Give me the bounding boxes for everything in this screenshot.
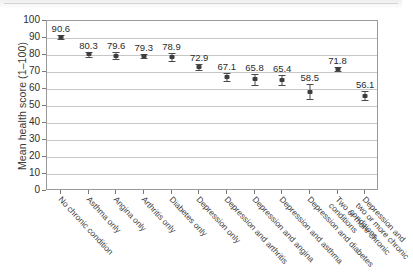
y-tick-label: 80 (14, 48, 40, 59)
error-bar-cap-lower (306, 99, 313, 100)
y-tick-label: 30 (14, 133, 40, 144)
error-bar-cap-lower (251, 85, 258, 86)
y-tick-label: 10 (14, 167, 40, 178)
point-marker (141, 54, 146, 58)
error-bar-cap-lower (279, 85, 286, 86)
point-value-label: 80.3 (79, 40, 98, 51)
point-value-label: 78.9 (162, 41, 181, 52)
point-marker (114, 54, 119, 58)
y-tick-label: 20 (14, 150, 40, 161)
error-bar-cap-lower (168, 61, 175, 62)
point-marker (280, 78, 285, 82)
error-bar-cap-lower (140, 58, 147, 59)
point-value-label: 79.6 (107, 40, 126, 51)
point-marker (58, 35, 63, 39)
data-point: 71.8 (323, 21, 353, 191)
point-marker (224, 75, 229, 79)
y-tick-label: 100 (14, 14, 40, 25)
data-point: 58.5 (295, 21, 325, 191)
y-tick-label: 40 (14, 116, 40, 127)
x-axis-category-line: No chronic condition (56, 195, 114, 257)
point-value-label: 56.1 (356, 79, 375, 90)
error-bar-cap-lower (113, 59, 120, 60)
error-bar-cap-upper (251, 74, 258, 75)
data-point: 79.3 (129, 21, 159, 191)
point-value-label: 71.8 (328, 55, 347, 66)
point-marker (307, 90, 312, 94)
error-bar-cap-upper (362, 91, 369, 92)
data-point: 78.9 (157, 21, 187, 191)
y-tick-label: 60 (14, 82, 40, 93)
error-bar-cap-lower (196, 70, 203, 71)
point-marker (335, 67, 340, 71)
data-point: 90.6 (46, 21, 76, 191)
plot-area: 90.680.379.679.378.972.967.165.865.458.5… (46, 20, 378, 190)
point-marker (86, 52, 91, 56)
error-bar-cap-lower (85, 57, 92, 58)
error-bar-cap-upper (279, 75, 286, 76)
y-tick-label: 70 (14, 65, 40, 76)
point-marker (169, 55, 174, 59)
y-tick-label: 90 (14, 31, 40, 42)
y-tick-label: 0 (14, 184, 40, 195)
data-point: 65.8 (240, 21, 270, 191)
point-value-label: 65.8 (245, 62, 264, 73)
error-bar-cap-lower (223, 81, 230, 82)
error-bar-cap-lower (362, 100, 369, 101)
point-marker (252, 77, 257, 81)
y-tick-label: 50 (14, 99, 40, 110)
data-point: 56.1 (350, 21, 380, 191)
error-bar-cap-upper (306, 84, 313, 85)
point-value-label: 90.6 (52, 23, 71, 34)
point-value-label: 58.5 (301, 72, 320, 83)
data-point: 67.1 (212, 21, 242, 191)
point-value-label: 72.9 (190, 52, 209, 63)
error-bar-cap-upper (223, 73, 230, 74)
data-point: 80.3 (74, 21, 104, 191)
point-value-label: 79.3 (135, 42, 154, 53)
error-bar-cap-lower (334, 71, 341, 72)
data-point: 65.4 (267, 21, 297, 191)
point-value-label: 67.1 (218, 61, 237, 72)
data-point: 79.6 (101, 21, 131, 191)
data-point: 72.9 (184, 21, 214, 191)
point-marker (197, 65, 202, 69)
point-value-label: 65.4 (273, 63, 292, 74)
point-marker (363, 94, 368, 98)
x-axis-category-label: No chronic condition (56, 195, 114, 257)
